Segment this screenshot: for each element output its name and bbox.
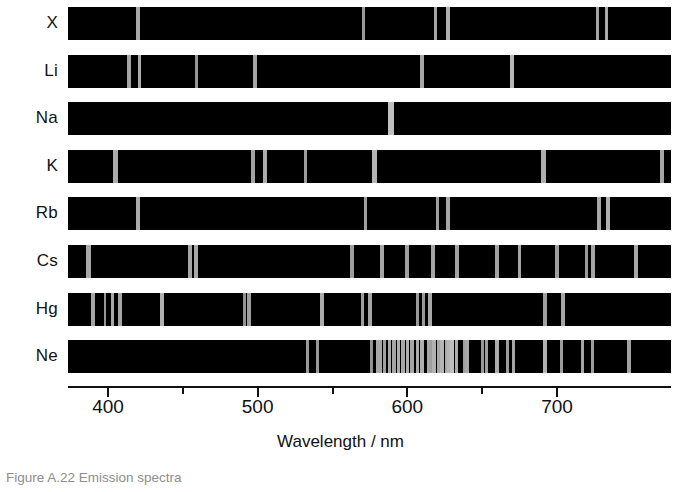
emission-line	[634, 245, 638, 278]
spectrum-row-label: Na	[0, 98, 58, 138]
emission-line	[243, 293, 246, 326]
emission-line	[111, 293, 115, 326]
emission-line	[368, 293, 372, 326]
axis-tick	[182, 386, 184, 394]
emission-line	[606, 197, 610, 230]
spectrum-band	[68, 102, 671, 135]
emission-line	[512, 340, 516, 373]
emission-line	[136, 7, 140, 40]
emission-line	[596, 7, 599, 40]
emission-line	[195, 55, 198, 88]
spectrum-row-label: Rb	[0, 193, 58, 233]
axis-tick-label: 700	[541, 396, 573, 418]
spectrum-row-label: Ne	[0, 336, 58, 376]
emission-line	[541, 150, 545, 183]
emission-line	[304, 150, 308, 183]
emission-line	[251, 150, 255, 183]
emission-line	[591, 340, 594, 373]
emission-line	[591, 245, 595, 278]
emission-line	[481, 340, 484, 373]
emission-line	[247, 293, 251, 326]
emission-line	[127, 55, 131, 88]
spectrum-row: Ne	[0, 336, 681, 376]
spectrum-band	[68, 7, 671, 40]
emission-line	[91, 293, 95, 326]
emission-line	[420, 55, 424, 88]
emission-line	[392, 340, 396, 373]
spectrum-row: X	[0, 3, 681, 43]
axis-rule	[68, 386, 671, 388]
emission-line	[364, 197, 368, 230]
emission-line	[370, 340, 373, 373]
spectrum-row-label: X	[0, 3, 58, 43]
emission-line	[428, 293, 432, 326]
emission-line	[597, 197, 601, 230]
emission-line	[401, 340, 405, 373]
spectrum-row-label: Cs	[0, 241, 58, 281]
emission-line	[136, 197, 140, 230]
emission-line	[160, 293, 164, 326]
emission-line	[422, 293, 425, 326]
emission-line	[118, 293, 122, 326]
emission-line	[555, 245, 559, 278]
emission-line	[660, 150, 664, 183]
emission-line	[605, 7, 609, 40]
emission-line	[440, 340, 444, 373]
emission-line	[188, 245, 192, 278]
emission-line	[465, 340, 469, 373]
spectrum-row: Rb	[0, 193, 681, 233]
emission-line	[518, 245, 522, 278]
spectrum-row-label: Hg	[0, 289, 58, 329]
figure-caption: Figure A.22 Emission spectra	[6, 470, 675, 485]
emission-line	[410, 340, 414, 373]
emission-line	[113, 150, 117, 183]
emission-line	[388, 340, 391, 373]
axis-tick	[481, 386, 483, 394]
emission-line	[253, 55, 257, 88]
emission-line	[380, 245, 384, 278]
emission-line	[561, 293, 565, 326]
emission-line	[397, 340, 400, 373]
emission-line	[436, 197, 439, 230]
emission-line	[543, 340, 547, 373]
axis-tick-label: 600	[391, 396, 423, 418]
emission-line	[405, 245, 409, 278]
emission-line	[434, 7, 437, 40]
emission-line	[585, 245, 588, 278]
emission-line	[455, 340, 458, 373]
spectrum-band	[68, 150, 671, 183]
spectrum-row: Na	[0, 98, 681, 138]
emission-line	[138, 55, 142, 88]
emission-line	[446, 197, 450, 230]
emission-line	[485, 340, 488, 373]
spectrum-row: K	[0, 146, 681, 186]
emission-line	[543, 293, 547, 326]
axis-tick	[332, 386, 334, 394]
emission-line	[383, 340, 386, 373]
emission-line	[376, 340, 381, 373]
emission-line	[495, 245, 499, 278]
axis-title: Wavelength / nm	[0, 432, 681, 452]
spectrum-row: Li	[0, 51, 681, 91]
emission-line	[316, 340, 319, 373]
emission-line	[372, 150, 377, 183]
emission-line	[581, 340, 585, 373]
emission-line	[104, 293, 107, 326]
emission-line	[350, 245, 354, 278]
emission-line	[86, 245, 90, 278]
axis-tick-label: 400	[92, 396, 124, 418]
emission-line	[416, 293, 419, 326]
spectrum-row-label: Li	[0, 51, 58, 91]
emission-line	[388, 102, 394, 135]
emission-line	[446, 7, 450, 40]
emission-line	[420, 340, 424, 373]
emission-line	[432, 340, 436, 373]
emission-line	[455, 245, 459, 278]
emission-line	[194, 245, 198, 278]
spectrum-band	[68, 340, 671, 373]
emission-spectra-figure: XLiNaKRbCsHgNe 400500600700 Wavelength /…	[0, 0, 681, 492]
emission-line	[506, 340, 509, 373]
emission-line	[495, 340, 499, 373]
emission-line	[510, 55, 514, 88]
emission-line	[306, 340, 309, 373]
